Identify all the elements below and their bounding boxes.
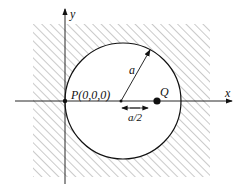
diagram-canvas: y x P(0,0,0) Q a a/2 [0, 0, 245, 194]
point-q-label: Q [160, 85, 169, 99]
x-axis-label: x [224, 86, 231, 100]
point-p-dot [63, 99, 67, 103]
y-axis-label: y [69, 7, 76, 21]
offset-label: a/2 [128, 111, 143, 123]
center-dot [120, 100, 123, 103]
point-p-label: P(0,0,0) [70, 88, 110, 102]
radius-label: a [129, 63, 135, 77]
